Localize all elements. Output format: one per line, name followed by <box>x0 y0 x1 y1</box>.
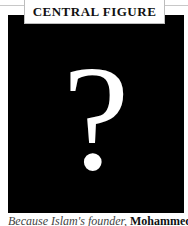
question-mark-icon: ? <box>8 15 184 213</box>
figure-label: CENTRAL FIGURE <box>24 0 165 24</box>
caption-bold: Mohammed <box>130 214 188 226</box>
caption-italic: Because Islam's founder, <box>8 214 130 226</box>
figure-caption: Because Islam's founder, Mohammed <box>8 213 188 226</box>
